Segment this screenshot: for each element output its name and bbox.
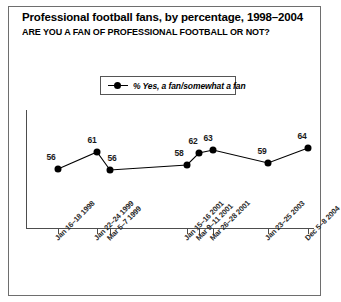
data-point-label: 61: [87, 135, 96, 145]
data-point-marker: [107, 167, 114, 174]
chart-legend: % Yes, a fan/somewhat a fan: [100, 76, 236, 95]
data-point-label: 58: [174, 148, 183, 158]
data-point-label: 59: [257, 146, 266, 156]
data-point-label: 56: [107, 153, 116, 163]
data-point-label: 64: [297, 131, 306, 141]
data-point-marker: [94, 149, 101, 156]
data-point-label: 63: [203, 133, 212, 143]
y-axis-line: [26, 110, 27, 229]
data-point-marker: [305, 145, 312, 152]
chart-subtitle: ARE YOU A FAN OF PROFESSIONAL FOOTBALL O…: [22, 27, 270, 39]
data-point-marker: [210, 147, 217, 154]
legend-marker-icon: [108, 81, 128, 90]
chart-title: Professional football fans, by percentag…: [22, 11, 303, 24]
data-point-marker: [196, 150, 203, 157]
data-point-label: 62: [188, 136, 197, 146]
data-point-marker: [55, 166, 62, 173]
data-point-label: 56: [46, 152, 55, 162]
data-point-marker: [265, 160, 272, 167]
data-point-marker: [184, 162, 191, 169]
legend-entry: % Yes, a fan/somewhat a fan: [101, 77, 235, 94]
legend-label: % Yes, a fan/somewhat a fan: [133, 81, 246, 91]
chart-frame-border: [8, 6, 321, 296]
